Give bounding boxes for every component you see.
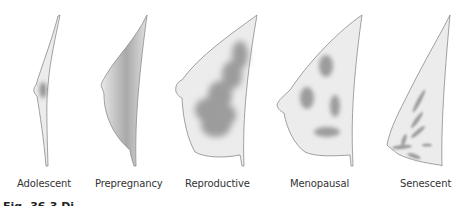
label-prepregnancy: Prepregnancy: [95, 178, 163, 189]
menopausal-profile: [277, 15, 362, 166]
reproductive-profile: [176, 15, 257, 166]
adolescent-profile: [34, 15, 60, 166]
senescent-profile: [387, 15, 450, 166]
label-reproductive: Reproductive: [185, 178, 250, 189]
figure-caption: Fig. 36.3 Di: [3, 200, 74, 206]
label-senescent: Senescent: [400, 178, 451, 189]
prepregnancy-profile: [101, 15, 147, 166]
adolescent-bud: [40, 82, 47, 98]
breast-development-diagram: [0, 0, 467, 206]
label-adolescent: Adolescent: [17, 178, 71, 189]
label-menopausal: Menopausal: [290, 178, 349, 189]
